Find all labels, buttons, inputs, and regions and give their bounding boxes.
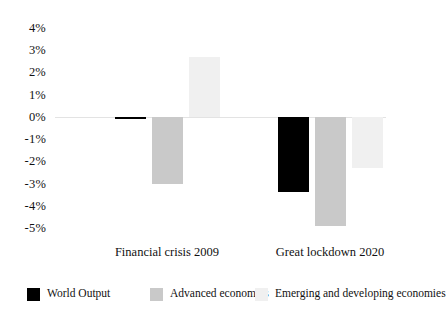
- legend-item[interactable]: Advanced economies: [150, 286, 269, 302]
- y-axis-tick-label: -5%: [25, 222, 46, 235]
- bar-group: [278, 28, 383, 228]
- legend-swatch-icon: [27, 288, 40, 301]
- legend-swatch-icon: [255, 288, 268, 301]
- y-axis-tick-label: 1%: [29, 88, 46, 101]
- y-axis-tick-label: -2%: [25, 155, 46, 168]
- x-axis-category-labels: Financial crisis 2009Great lockdown 2020: [55, 246, 386, 268]
- x-axis-category-label: Great lockdown 2020: [276, 246, 384, 260]
- chart-legend: World OutputAdvanced economiesEmerging a…: [0, 286, 396, 306]
- bar[interactable]: [278, 117, 309, 193]
- y-axis-tick-label: 0%: [29, 111, 46, 124]
- bar[interactable]: [189, 57, 220, 117]
- bar[interactable]: [152, 117, 183, 184]
- y-axis-tick-label: 2%: [29, 66, 46, 79]
- y-axis: 4%3%2%1%0%-1%-2%-3%-4%-5%: [0, 28, 55, 228]
- legend-item[interactable]: World Output: [27, 286, 110, 302]
- legend-label: World Output: [47, 288, 110, 300]
- legend-label: Emerging and developing economies: [275, 288, 446, 300]
- legend-label: Advanced economies: [170, 288, 269, 300]
- x-axis-category-label: Financial crisis 2009: [115, 246, 219, 260]
- y-axis-tick-label: 4%: [29, 22, 46, 35]
- y-axis-tick-label: -4%: [25, 200, 46, 213]
- y-axis-tick-label: 3%: [29, 44, 46, 57]
- legend-swatch-icon: [150, 288, 163, 301]
- y-axis-tick-label: -1%: [25, 133, 46, 146]
- y-axis-tick-label: -3%: [25, 177, 46, 190]
- bar-group: [115, 28, 220, 228]
- bar[interactable]: [315, 117, 346, 226]
- legend-item[interactable]: Emerging and developing economies: [255, 286, 446, 302]
- bar[interactable]: [352, 117, 383, 168]
- bar[interactable]: [115, 117, 146, 120]
- plot-area: [55, 28, 386, 228]
